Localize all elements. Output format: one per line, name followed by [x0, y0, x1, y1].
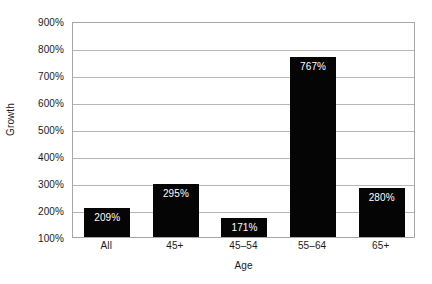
bar[interactable]: 295% [153, 184, 199, 237]
bars: 209%295%171%767%280% [73, 23, 414, 237]
bar-value-label: 295% [163, 184, 189, 237]
bar-group: 767% [279, 21, 348, 237]
bar[interactable]: 280% [359, 188, 405, 237]
bar-group: 295% [142, 21, 211, 237]
bar[interactable]: 171% [221, 218, 267, 237]
bar-group: 280% [347, 21, 416, 237]
y-axis-tick-label: 100% [38, 233, 64, 244]
y-axis-tick-labels: 100%200%300%400%500%600%700%800%900% [24, 22, 68, 238]
x-axis-title-text: Age [234, 260, 252, 271]
x-axis-tick-label: All [101, 240, 112, 251]
y-axis-tick-label: 700% [38, 71, 64, 82]
bar-value-label: 209% [94, 208, 120, 237]
bar[interactable]: 767% [290, 57, 336, 237]
plot-area: 209%295%171%767%280% [72, 22, 415, 238]
bar-group: 209% [73, 21, 142, 237]
y-axis-tick-label: 900% [38, 17, 64, 28]
y-axis-tick-label: 300% [38, 179, 64, 190]
bar-value-label: 280% [369, 188, 395, 237]
y-axis-tick-label: 500% [38, 125, 64, 136]
x-axis-tick-label: 45+ [166, 240, 183, 251]
x-axis-tick-labels: All45+45–5455–6465+ [72, 240, 415, 256]
x-axis-title: Age [72, 260, 415, 271]
bar-value-label: 767% [300, 57, 326, 237]
bar-value-label: 171% [231, 218, 257, 237]
y-axis-title-text: Growth [5, 103, 16, 136]
x-axis-tick-label: 55–64 [298, 240, 326, 251]
bar-chart: Growth 100%200%300%400%500%600%700%800%9… [0, 0, 432, 284]
y-axis-title: Growth [0, 0, 20, 238]
bar[interactable]: 209% [84, 208, 130, 237]
x-axis-tick-label: 45–54 [229, 240, 257, 251]
x-axis-tick-label: 65+ [372, 240, 389, 251]
bar-group: 171% [210, 21, 279, 237]
y-axis-tick-label: 200% [38, 206, 64, 217]
y-axis-tick-label: 800% [38, 44, 64, 55]
y-axis-tick-label: 600% [38, 98, 64, 109]
y-axis-tick-label: 400% [38, 152, 64, 163]
